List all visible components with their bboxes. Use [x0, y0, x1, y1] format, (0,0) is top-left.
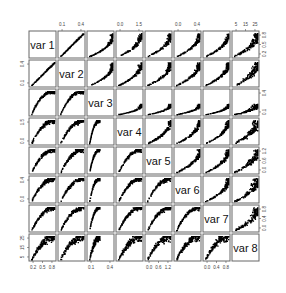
axis-tick-label: 0.4: [213, 265, 220, 270]
axis-tick-label: 1.5: [136, 22, 143, 27]
panel-r3-c7: [203, 89, 230, 116]
axis-tick-label: 0.1: [262, 108, 267, 115]
axis-tick-label: 0.6: [262, 157, 267, 164]
panel-r8-c5: [145, 234, 172, 261]
panel-r4-c3: [87, 118, 114, 145]
panel-r3-c6: [174, 89, 201, 116]
axis-tick-label: 0.4: [262, 89, 267, 96]
panel-r6-c6: var 6: [174, 176, 201, 203]
panel-r8-c7: [203, 234, 230, 261]
panel-r6-c5: [145, 176, 172, 203]
panel-r7-c5: [145, 205, 172, 232]
panel-r4-c7: [203, 118, 230, 145]
panel-r1-c5: [145, 31, 172, 58]
axis-tick-label: 0.5: [39, 265, 46, 270]
panel-r5-c6: [174, 147, 201, 174]
panel-r8-c6: [174, 234, 201, 261]
axis-tick-label: 0.4: [20, 176, 25, 183]
axis-tick-label: 0.4: [20, 60, 25, 67]
diagonal-label: var 4: [117, 126, 141, 138]
diagonal-label: var 3: [88, 97, 112, 109]
axis-tick-label: 0.0: [204, 265, 211, 270]
panel-r7-c8: [232, 205, 259, 232]
panel-r2-c6: [174, 60, 201, 87]
axis-tick-label: 0.4: [194, 22, 201, 27]
scatterplot-matrix: var 1var 2var 3var 4var 5var 6var 7var 8…: [0, 0, 286, 293]
axis-tick-label: 0.0: [117, 22, 124, 27]
axis-tick-label: 0.2: [262, 50, 267, 57]
panel-frame: [203, 118, 230, 145]
panel-r8-c3: [87, 234, 114, 261]
axis-tick-label: 1.2: [165, 265, 172, 270]
axis-tick-label: 0.1: [88, 265, 95, 270]
panel-r3-c2: [58, 89, 85, 116]
panel-r6-c3: [87, 176, 114, 203]
panel-r8-c1: [29, 234, 56, 261]
axis-tick-label: 0.0: [20, 137, 25, 144]
diagonal-label: var 8: [233, 242, 257, 254]
axis-tick-label: 0.0: [20, 195, 25, 202]
axis-tick-label: 1.2: [262, 147, 267, 154]
axis-tick-label: 5: [20, 255, 25, 258]
diagonal-label: var 5: [146, 155, 170, 167]
panel-r3-c5: [145, 89, 172, 116]
panel-r2-c2: var 2: [58, 60, 85, 87]
axis-tick-label: 0.0: [175, 22, 182, 27]
axis-tick-label: 0.8: [262, 31, 267, 38]
axis-tick-label: 0.6: [155, 265, 162, 270]
panel-r7-c6: [174, 205, 201, 232]
diagonal-label: var 7: [204, 213, 228, 225]
panel-r1-c4: [116, 31, 143, 58]
axis-tick-label: 0.8: [49, 265, 56, 270]
panel-r1-c3: [87, 31, 114, 58]
panel-r5-c7: [203, 147, 230, 174]
panel-r7-c7: var 7: [203, 205, 230, 232]
panel-r2-c3: [87, 60, 114, 87]
axis-tick-label: 0.1: [59, 22, 66, 27]
panel-r3-c3: var 3: [87, 89, 114, 116]
panel-r6-c4: [116, 176, 143, 203]
panel-r7-c4: [116, 205, 143, 232]
diagonal-label: var 6: [175, 184, 199, 196]
panel-r2-c5: [145, 60, 172, 87]
panel-frame: [174, 147, 201, 174]
axis-tick-label: 0.4: [107, 265, 114, 270]
panel-r4-c5: [145, 118, 172, 145]
axis-tick-label: 15: [20, 245, 25, 251]
panel-r5-c3: [87, 147, 114, 174]
panel-r8-c4: [116, 234, 143, 261]
panel-r5-c8: [232, 147, 259, 174]
panel-r7-c1: [29, 205, 56, 232]
panel-r6-c8: [232, 176, 259, 203]
panel-r5-c5: var 5: [145, 147, 172, 174]
panel-r1-c6: [174, 31, 201, 58]
diagonal-label: var 2: [59, 68, 83, 80]
axis-tick-label: 15: [243, 22, 249, 27]
panel-r7-c2: [58, 205, 85, 232]
panel-r1-c8: [232, 31, 259, 58]
axis-tick-label: 0.4: [262, 215, 267, 222]
panel-r2-c8: [232, 60, 259, 87]
panels-layer: var 1var 2var 3var 4var 5var 6var 7var 8: [29, 31, 259, 261]
axis-tick-label: 0.8: [223, 265, 230, 270]
axis-tick-label: 5: [235, 22, 238, 27]
panel-r2-c4: [116, 60, 143, 87]
axes-layer: 0.10.40.01.50.00.4515250.20.50.80.10.40.…: [20, 22, 267, 270]
panel-r7-c3: [87, 205, 114, 232]
diagonal-label: var 1: [30, 39, 54, 51]
axis-tick-label: 25: [20, 235, 25, 241]
panel-r5-c4: [116, 147, 143, 174]
panel-r1-c1: var 1: [29, 31, 56, 58]
axis-tick-label: 0.0: [146, 265, 153, 270]
axis-tick-label: 25: [252, 22, 258, 27]
axis-tick-label: 0.0: [262, 166, 267, 173]
panel-r3-c4: [116, 89, 143, 116]
axis-tick-label: 0.0: [262, 224, 267, 231]
panel-r1-c2: [58, 31, 85, 58]
panel-r2-c7: [203, 60, 230, 87]
axis-tick-label: 0.4: [78, 22, 85, 27]
panel-r6-c7: [203, 176, 230, 203]
panel-r4-c6: [174, 118, 201, 145]
panel-r4-c8: [232, 118, 259, 145]
panel-r1-c7: [203, 31, 230, 58]
